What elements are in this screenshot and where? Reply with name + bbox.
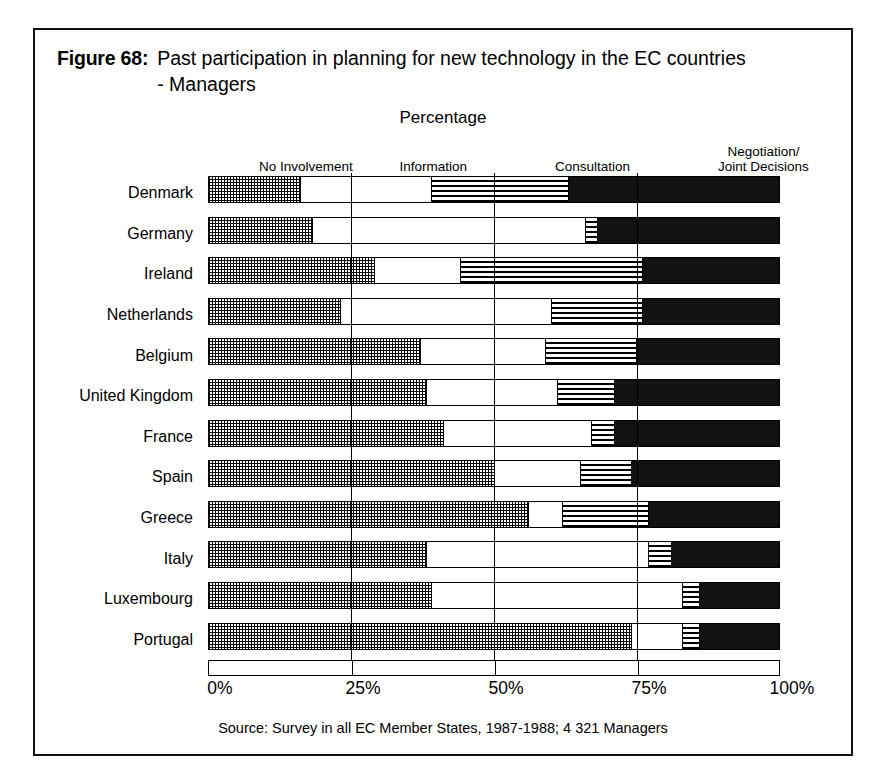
bar-segment-no-involvement <box>209 218 312 243</box>
x-axis-tick-label-25: 25% <box>345 678 380 699</box>
bar-segment-negotiation <box>636 339 779 364</box>
bar-segment-no-involvement <box>209 339 420 364</box>
bar-segment-negotiation <box>568 177 779 202</box>
figure-frame: Figure 68: Past participation in plannin… <box>33 28 853 756</box>
legend-label-2: Consultation <box>523 159 663 174</box>
bar-segment-consultation <box>591 421 614 446</box>
y-axis-label-united-kingdom: United Kingdom <box>35 376 203 417</box>
bar-segment-information <box>494 461 580 486</box>
x-axis-tick-labels: 0%25%50%75%100% <box>175 678 815 704</box>
stacked-bar-united-kingdom <box>208 379 780 406</box>
bar-segment-information <box>374 258 460 283</box>
x-axis-tick-label-50: 50% <box>488 678 523 699</box>
bar-segment-consultation <box>580 461 631 486</box>
bar-segment-consultation <box>682 583 699 608</box>
stacked-bar-italy <box>208 541 780 568</box>
bar-segment-no-involvement <box>209 542 426 567</box>
stacked-bar-netherlands <box>208 298 780 325</box>
bar-segment-information <box>426 542 648 567</box>
title-block: Figure 68: Past participation in plannin… <box>57 46 817 97</box>
title-row: Figure 68: Past participation in plannin… <box>57 46 817 97</box>
bar-segment-information <box>340 299 551 324</box>
bar-row <box>208 295 780 336</box>
bar-segment-information <box>312 218 586 243</box>
bar-segment-negotiation <box>614 421 779 446</box>
bar-segment-no-involvement <box>209 583 431 608</box>
bar-rows <box>208 173 780 660</box>
bar-segment-information <box>300 177 431 202</box>
bar-segment-information <box>431 583 682 608</box>
stacked-bar-germany <box>208 217 780 244</box>
bar-segment-negotiation <box>597 218 779 243</box>
bar-row <box>208 254 780 295</box>
stacked-bar-luxembourg <box>208 582 780 609</box>
bar-segment-negotiation <box>614 380 779 405</box>
bar-segment-negotiation <box>671 542 779 567</box>
x-axis-tick-75 <box>638 661 639 675</box>
legend-label-3: Negotiation/ Joint Decisions <box>688 144 838 174</box>
bar-segment-no-involvement <box>209 177 300 202</box>
bar-segment-negotiation <box>699 624 779 649</box>
legend: No InvolvementInformationConsultationNeg… <box>35 138 851 174</box>
stacked-bar-spain <box>208 460 780 487</box>
bar-row <box>208 538 780 579</box>
legend-label-0: No Involvement <box>231 159 381 174</box>
y-axis-label-belgium: Belgium <box>35 335 203 376</box>
figure-page: Figure 68: Past participation in plannin… <box>0 0 887 784</box>
page-title: Past participation in planning for new t… <box>157 46 757 97</box>
y-axis-label-portugal: Portugal <box>35 620 203 661</box>
bar-segment-negotiation <box>642 258 779 283</box>
x-axis-tick-label-100: 100% <box>770 678 815 699</box>
legend-label-1: Information <box>368 159 498 174</box>
stacked-bar-denmark <box>208 176 780 203</box>
y-axis-label-netherlands: Netherlands <box>35 295 203 336</box>
bar-segment-no-involvement <box>209 380 426 405</box>
bar-segment-no-involvement <box>209 258 374 283</box>
x-axis <box>208 660 780 676</box>
bar-segment-no-involvement <box>209 502 528 527</box>
y-axis-label-italy: Italy <box>35 538 203 579</box>
bar-segment-information <box>631 624 682 649</box>
y-axis-label-greece: Greece <box>35 498 203 539</box>
bar-row <box>208 335 780 376</box>
bar-row <box>208 579 780 620</box>
y-axis-country-labels: DenmarkGermanyIrelandNetherlandsBelgiumU… <box>35 173 203 660</box>
figure-number-label: Figure 68: <box>57 46 148 72</box>
bar-row <box>208 376 780 417</box>
bar-segment-consultation <box>557 380 614 405</box>
y-axis-label-luxembourg: Luxembourg <box>35 579 203 620</box>
y-axis-label-denmark: Denmark <box>35 173 203 214</box>
bar-segment-consultation <box>460 258 642 283</box>
stacked-bar-belgium <box>208 338 780 365</box>
bar-segment-consultation <box>682 624 699 649</box>
bar-segment-no-involvement <box>209 421 443 446</box>
x-axis-tick-label-75: 75% <box>631 678 666 699</box>
bar-row <box>208 620 780 661</box>
bar-segment-negotiation <box>631 461 779 486</box>
bar-segment-consultation <box>431 177 568 202</box>
bar-segment-no-involvement <box>209 461 494 486</box>
x-axis-tick-label-0: 0% <box>207 678 232 699</box>
y-axis-label-france: France <box>35 417 203 458</box>
bar-segment-information <box>420 339 545 364</box>
bar-row <box>208 498 780 539</box>
bar-segment-information <box>426 380 557 405</box>
y-axis-label-spain: Spain <box>35 457 203 498</box>
bar-segment-information <box>443 421 591 446</box>
bar-row <box>208 173 780 214</box>
bar-segment-consultation <box>562 502 648 527</box>
axis-caption-percentage: Percentage <box>35 108 851 128</box>
x-axis-tick-50 <box>495 661 496 675</box>
stacked-bar-portugal <box>208 623 780 650</box>
y-axis-label-germany: Germany <box>35 214 203 255</box>
bar-segment-consultation <box>551 299 642 324</box>
y-axis-label-ireland: Ireland <box>35 254 203 295</box>
bar-segment-no-involvement <box>209 624 631 649</box>
bar-segment-consultation <box>648 542 671 567</box>
bar-segment-negotiation <box>699 583 779 608</box>
bar-segment-negotiation <box>648 502 779 527</box>
stacked-bar-greece <box>208 501 780 528</box>
x-axis-tick-25 <box>352 661 353 675</box>
source-note: Source: Survey in all EC Member States, … <box>35 720 851 736</box>
bar-row <box>208 417 780 458</box>
